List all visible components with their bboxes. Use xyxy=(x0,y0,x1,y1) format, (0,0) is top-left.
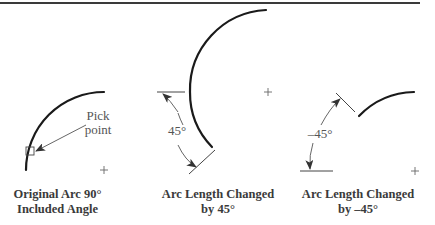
caption-line2: Included Angle xyxy=(10,202,105,217)
caption-line2: by 45° xyxy=(158,202,278,217)
shortened-arc xyxy=(359,92,414,116)
center-mark-icon xyxy=(411,167,419,175)
caption-line2: by –45° xyxy=(298,202,418,217)
caption-original-arc: Original Arc 90° Included Angle xyxy=(10,187,105,217)
pick-point-label-line1: Pick xyxy=(86,108,110,123)
center-mark-icon xyxy=(100,166,108,174)
caption-line1: Original Arc 90° xyxy=(10,187,105,202)
panel-original-arc: Pick point xyxy=(26,92,112,174)
caption-arc-plus-45: Arc Length Changed by 45° xyxy=(158,187,278,217)
extension-line-slanted xyxy=(189,150,215,174)
caption-line1: Arc Length Changed xyxy=(298,187,418,202)
panel-arc-minus-45: –45° xyxy=(300,92,419,175)
panel-arc-plus-45: 45° xyxy=(157,10,272,174)
extension-line-slanted xyxy=(336,93,355,112)
pick-point-label-line2: point xyxy=(85,122,112,137)
extended-arc xyxy=(190,10,266,147)
angle-label-minus-45: –45° xyxy=(307,126,333,141)
pick-point-leader-arrow xyxy=(36,125,86,151)
center-mark-icon xyxy=(264,88,272,96)
caption-arc-minus-45: Arc Length Changed by –45° xyxy=(298,187,418,217)
angle-label-45: 45° xyxy=(168,123,186,138)
caption-line1: Arc Length Changed xyxy=(158,187,278,202)
